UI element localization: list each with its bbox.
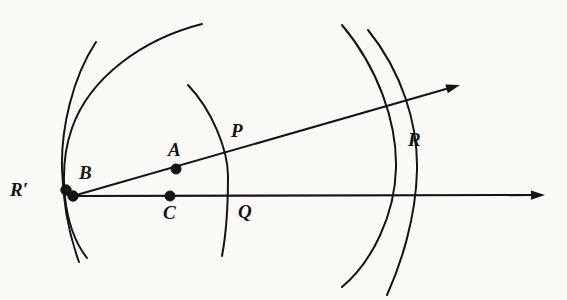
label-B: B [79,163,92,182]
arcs-group [62,24,417,295]
label-C: C [163,203,176,222]
rays-group [73,84,545,199]
geometry-figure: R′BACPQR [0,0,567,300]
point-C [165,191,175,201]
label-Q: Q [238,202,252,221]
arc-left-inner [62,42,96,262]
label-R: R [408,130,421,149]
arc-left-outer [64,24,202,258]
arc-right-outer [368,30,417,295]
ray-horizontal [73,195,534,196]
point-B [68,191,78,201]
ray-horizontal-arrowhead-icon [531,190,545,199]
label-A: A [168,140,181,159]
label-P: P [231,121,243,140]
geometry-canvas [0,0,567,300]
ray-upper [73,88,449,196]
ray-upper-arrowhead-icon [445,84,460,93]
point-A [171,164,181,174]
arc-right-inner [342,25,396,287]
label-R-prime: R′ [10,180,28,199]
arc-middle [188,85,228,256]
